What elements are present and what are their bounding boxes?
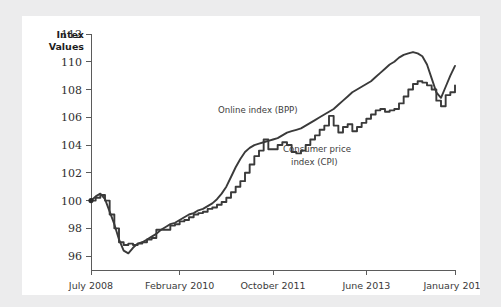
index-comparison-line-chart: 9698100102104106108110112 July 2008Febru… — [22, 16, 480, 295]
series-annotations: Online index (BPP)Consumer priceindex (C… — [218, 105, 351, 167]
series-annotation: Online index (BPP) — [218, 105, 298, 115]
y-tick-label: 102 — [61, 167, 82, 180]
y-tick-label: 98 — [68, 222, 82, 235]
y-tick-label: 106 — [61, 111, 82, 124]
series-annotation: Consumer price — [283, 144, 351, 154]
x-tick-label: October 2011 — [240, 280, 305, 291]
x-tick-label: February 2010 — [145, 280, 214, 291]
y-tick-label: 104 — [61, 139, 82, 152]
x-tick-label: July 2008 — [68, 280, 113, 291]
y-tick-label: 96 — [68, 250, 82, 263]
y-tick-label: 110 — [61, 56, 82, 69]
x-tick-label: June 2013 — [341, 280, 390, 291]
series-lines — [91, 52, 455, 253]
y-axis-title-line2: Values — [49, 41, 85, 52]
x-axis-ticks: July 2008February 2010October 2011June 2… — [68, 270, 480, 291]
y-tick-label: 100 — [61, 195, 82, 208]
series-annotation: index (CPI) — [291, 157, 338, 167]
y-axis-title-line1: Intex — [57, 29, 84, 40]
y-axis-ticks: 9698100102104106108110112 — [61, 28, 91, 263]
x-tick-label: January 2015 — [422, 280, 480, 291]
series-line-bpp — [91, 52, 455, 253]
chart-page: 9698100102104106108110112 July 2008Febru… — [0, 0, 501, 307]
chart-card: 9698100102104106108110112 July 2008Febru… — [22, 16, 480, 295]
series-start-marker — [88, 198, 93, 203]
y-tick-label: 108 — [61, 84, 82, 97]
